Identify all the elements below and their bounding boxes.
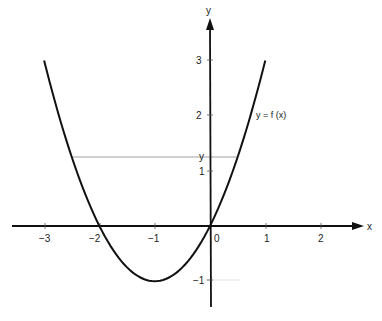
x-tick-label-2: 2 — [318, 233, 324, 244]
y-tick-label-1: 1 — [199, 166, 205, 177]
x-axis-label: x — [367, 221, 372, 232]
horizontal-line-label: y — [199, 151, 204, 162]
y-axis-label: y — [206, 5, 211, 16]
y-tick-label-2: 2 — [196, 110, 202, 121]
x-tick-label-minus-3: −3 — [39, 233, 51, 244]
y-axis — [210, 28, 211, 307]
x-tick-label-minus-2: −2 — [89, 233, 101, 244]
x-axis-arrow-icon — [352, 222, 364, 230]
x-tick-label-minus-1: −1 — [148, 233, 160, 244]
x-tick-label-0: 0 — [214, 233, 220, 244]
function-graph: x y −3 −2 −1 0 1 2 3 2 1 −1 y y = f (x) — [0, 0, 382, 321]
x-tick-label-1: 1 — [264, 233, 270, 244]
y-tick-label-3: 3 — [196, 55, 202, 66]
y-axis-arrow-icon — [206, 18, 214, 30]
y-tick-label-minus-1: −1 — [193, 275, 205, 286]
curve-label: y = f (x) — [256, 110, 286, 120]
function-curve — [44, 60, 265, 281]
